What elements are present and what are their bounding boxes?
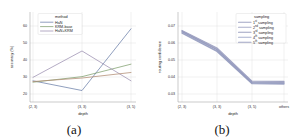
- panel-a-xtick-2: (3, 5): [127, 105, 135, 109]
- panel-a-yaxis-title: accuracy (%): [9, 45, 14, 68]
- panel-a-legend[interactable]: method HaN KRM-base HaN+KRM: [38, 14, 82, 35]
- panel-b-ytick-0: 0.03: [168, 92, 175, 96]
- panel-b-xtick-labels: (2, 3) (3, 3) (3, 5) others: [178, 105, 289, 109]
- panel-b-plot: 0.03 0.04 0.05 0.06 0.07 (2, 3) (3, 3) (…: [148, 0, 296, 118]
- panel-b-xtick-1: (3, 3): [213, 105, 221, 109]
- panel-a-ytick-labels: 20 30 40 50 60: [23, 24, 27, 96]
- panel-b-caption: (b): [148, 120, 296, 140]
- panel-a-ytick-4: 60: [23, 24, 27, 28]
- panel-b-ytick-labels: 0.03 0.04 0.05 0.06 0.07: [168, 24, 175, 96]
- panel-b-legend-title: sampling: [254, 15, 269, 19]
- panel-b-ytick-2: 0.05: [168, 58, 175, 62]
- panel-b-xtick-2: (3, 5): [248, 105, 256, 109]
- panel-b-xtick-3: others: [279, 105, 289, 109]
- panel-a-caption: (a): [0, 120, 148, 140]
- panel-b-ytick-1: 0.04: [168, 75, 175, 79]
- panel-b-ytick-4: 0.07: [168, 24, 175, 28]
- panel-a-ytick-3: 50: [23, 41, 27, 45]
- panel-a-ytick-1: 30: [23, 75, 27, 79]
- panel-a-legend-title: method: [55, 15, 68, 19]
- panel-b: 0.03 0.04 0.05 0.06 0.07 (2, 3) (3, 3) (…: [148, 0, 296, 140]
- panel-a-ytick-0: 20: [23, 92, 27, 96]
- panel-a-ytick-2: 40: [23, 58, 27, 62]
- panel-b-legend[interactable]: sampling 1st sampling 2nd sampling 3rd s…: [236, 14, 286, 45]
- panel-a-xtick-labels: (2, 3) (3, 3) (3, 5): [29, 105, 135, 109]
- panel-a-legend-label-0: HaN: [55, 21, 63, 25]
- panel-a-svg: 20 30 40 50 60 (2, 3) (3, 3) (3, 5) dept…: [0, 0, 148, 118]
- two-panel-figure: 20 30 40 50 60 (2, 3) (3, 3) (3, 5) dept…: [0, 0, 296, 140]
- panel-b-legend-label-4: 5th sampling: [253, 39, 273, 44]
- panel-a-plot: 20 30 40 50 60 (2, 3) (3, 3) (3, 5) dept…: [0, 0, 148, 118]
- panel-a: 20 30 40 50 60 (2, 3) (3, 3) (3, 5) dept…: [0, 0, 148, 140]
- panel-b-yaxis-title: routing confidence: [157, 41, 162, 73]
- panel-b-svg: 0.03 0.04 0.05 0.06 0.07 (2, 3) (3, 3) (…: [148, 0, 296, 118]
- panel-b-xaxis-title: depth: [228, 111, 238, 116]
- panel-a-xtick-0: (2, 3): [29, 105, 37, 109]
- panel-b-ytick-3: 0.06: [168, 41, 175, 45]
- panel-b-xtick-0: (2, 3): [178, 105, 186, 109]
- panel-a-xaxis-title: depth: [78, 111, 88, 116]
- panel-a-xtick-1: (3, 3): [78, 105, 86, 109]
- panel-a-legend-label-1: KRM-base: [55, 25, 72, 29]
- panel-a-legend-label-2: HaN+KRM: [55, 29, 73, 33]
